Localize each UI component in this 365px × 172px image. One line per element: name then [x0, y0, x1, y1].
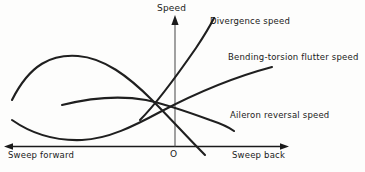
x-axis-left-arrowhead [4, 143, 13, 150]
x-axis-label-sweep-forward: Sweep forward [8, 150, 74, 160]
origin-label: O [170, 149, 177, 159]
y-axis-label: Speed [157, 3, 186, 13]
curve-label-bending-torsion-flutter-speed: Bending-torsion flutter speed [228, 52, 358, 62]
curve-label-divergence-speed: Divergence speed [210, 16, 290, 26]
y-axis-arrowhead [171, 15, 178, 25]
x-axis-right-arrowhead [280, 143, 289, 150]
x-axis [4, 143, 289, 150]
curve-divergence-speed [12, 56, 205, 155]
aeroelastic-speed-diagram: Speed Divergence speed Bending-torsion f… [0, 0, 365, 172]
curve-aileron-reversal-speed [62, 98, 234, 131]
diagram-canvas [0, 0, 365, 172]
curve-label-aileron-reversal-speed: Aileron reversal speed [230, 110, 329, 120]
curve-divergence-speed-upper-branch [140, 18, 214, 120]
x-axis-label-sweep-back: Sweep back [232, 150, 285, 160]
